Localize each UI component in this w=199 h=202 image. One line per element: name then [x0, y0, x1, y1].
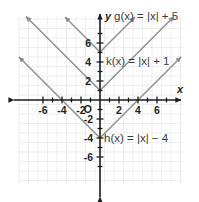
x-tick-label--4: -4: [57, 104, 66, 116]
origin-label: O: [84, 103, 92, 115]
function-label-h: h(x) = |x| − 4: [104, 132, 169, 144]
function-label-k: k(x) = |x| + 1: [106, 55, 170, 67]
function-label-g: g(x) = |x| + 5: [114, 10, 178, 22]
x-tick-label-6: 6: [154, 104, 160, 116]
y-tick-label--4: -4: [84, 132, 93, 144]
y-tick-label-6: 6: [85, 37, 91, 49]
coordinate-plane-svg: -6 -4 -2 2 4 6 6 4 2 -2 -4 -6 O x y g(x)…: [0, 0, 199, 202]
graph-figure: -6 -4 -2 2 4 6 6 4 2 -2 -4 -6 O x y g(x)…: [0, 0, 199, 202]
y-tick-label-2: 2: [85, 75, 91, 87]
x-axis-name: x: [176, 83, 184, 95]
y-tick-label-4: 4: [85, 56, 91, 68]
y-axis-name: y: [104, 10, 112, 22]
x-tick-label-2: 2: [116, 104, 122, 116]
x-tick-label-4: 4: [135, 104, 141, 116]
x-tick-label--6: -6: [38, 104, 47, 116]
y-tick-label--6: -6: [84, 151, 93, 163]
